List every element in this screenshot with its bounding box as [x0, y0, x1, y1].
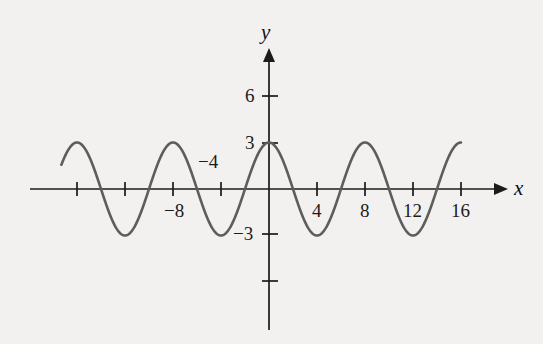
x-axis-label: x: [514, 178, 523, 199]
x-tick-label-4: 4: [312, 201, 322, 220]
y-tick-label-3: 3: [245, 133, 255, 152]
figure-background: [0, 0, 543, 344]
y-axis-label: y: [261, 22, 270, 43]
graph-figure: −8 −4 4 8 12 16 6 3 −3 x y: [0, 0, 543, 344]
coordinate-plane: [0, 0, 543, 344]
y-tick-label--3: −3: [233, 224, 253, 243]
x-tick-label-8: 8: [360, 201, 370, 220]
x-tick-label-16: 16: [451, 201, 470, 220]
x-tick-label--4: −4: [198, 152, 218, 171]
y-tick-label-6: 6: [245, 86, 255, 105]
x-tick-label-12: 12: [403, 201, 422, 220]
x-tick-label--8: −8: [164, 201, 184, 220]
